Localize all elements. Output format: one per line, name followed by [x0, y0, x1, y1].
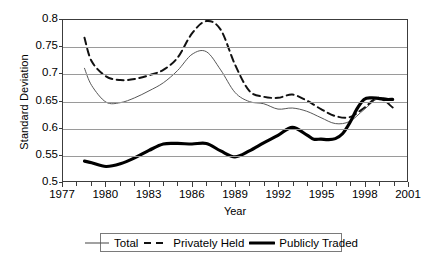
- x-axis-title: Year: [62, 205, 408, 217]
- y-axis-tick-label: 0.75: [6, 40, 58, 51]
- x-axis-tick-label: 1998: [341, 188, 389, 200]
- y-axis-tick-label: 0.55: [6, 149, 58, 160]
- x-axis-tick-mark: [307, 182, 308, 186]
- y-axis-tick-label: 0.7: [6, 67, 58, 78]
- thick-solid-line-icon: [249, 238, 275, 248]
- dashed-line-icon: [143, 238, 169, 248]
- x-axis-tick-mark: [350, 182, 351, 186]
- series-lines: [63, 20, 407, 181]
- plot-area: [62, 19, 408, 182]
- legend-item-label: Privately Held: [173, 237, 244, 249]
- gridline: [63, 47, 407, 48]
- standard-deviation-line-chart: Standard Deviation 0.80.750.70.650.60.55…: [0, 0, 438, 264]
- legend-item-label: Publicly Traded: [279, 237, 358, 249]
- legend-item-publicly-traded[interactable]: Publicly Traded: [249, 237, 358, 249]
- gridline: [63, 74, 407, 75]
- x-axis-tick-mark: [365, 182, 366, 187]
- gridline: [63, 102, 407, 103]
- x-axis-tick-mark: [293, 182, 294, 186]
- x-axis-tick-mark: [105, 182, 106, 187]
- x-axis-tick-label: 1989: [211, 188, 259, 200]
- gridline: [63, 156, 407, 157]
- x-axis-tick-mark: [322, 182, 323, 187]
- x-axis-tick-label: 1983: [125, 188, 173, 200]
- x-axis-tick-mark: [134, 182, 135, 186]
- y-axis-tick-label: 0.6: [6, 122, 58, 133]
- y-axis-tick-label: 0.5: [6, 176, 58, 187]
- x-axis-tick-mark: [76, 182, 77, 186]
- x-axis-tick-mark: [62, 182, 63, 187]
- x-axis-tick-mark: [278, 182, 279, 187]
- x-axis-tick-mark: [394, 182, 395, 186]
- x-axis-tick-label: 2001: [384, 188, 432, 200]
- x-axis-tick-mark: [235, 182, 236, 187]
- chart-legend: TotalPrivately HeldPublicly Traded: [100, 233, 342, 252]
- x-axis-tick-mark: [379, 182, 380, 186]
- x-axis-tick-label: 1992: [254, 188, 302, 200]
- gridline: [63, 129, 407, 130]
- x-axis-tick-mark: [336, 182, 337, 186]
- x-axis-tick-mark: [149, 182, 150, 187]
- x-axis-tick-mark: [120, 182, 121, 186]
- series-line-total: [85, 51, 393, 124]
- x-axis-tick-mark: [408, 182, 409, 187]
- x-axis-tick-labels: 197719801983198619891992199519982001: [62, 188, 408, 204]
- x-axis-tick-mark: [206, 182, 207, 186]
- legend-item-total[interactable]: Total: [84, 237, 138, 249]
- x-axis-tick-mark: [264, 182, 265, 186]
- series-line-privately-held: [85, 21, 393, 118]
- x-axis-tick-mark: [91, 182, 92, 186]
- legend-item-label: Total: [114, 237, 138, 249]
- x-axis-tick-mark: [221, 182, 222, 186]
- y-axis-tick-label: 0.8: [6, 13, 58, 24]
- x-axis-tick-label: 1977: [38, 188, 86, 200]
- legend-item-privately-held[interactable]: Privately Held: [143, 237, 244, 249]
- y-axis-tick-labels: 0.80.750.70.650.60.550.5: [2, 0, 58, 264]
- y-axis-tick-label: 0.65: [6, 95, 58, 106]
- x-axis-tick-mark: [192, 182, 193, 187]
- x-axis-tick-label: 1995: [298, 188, 346, 200]
- x-axis-tick-mark: [177, 182, 178, 186]
- thin-solid-line-icon: [84, 238, 110, 248]
- x-axis-tick-label: 1980: [81, 188, 129, 200]
- x-axis-tick-mark: [249, 182, 250, 186]
- x-axis-tick-label: 1986: [168, 188, 216, 200]
- x-axis-tick-mark: [163, 182, 164, 186]
